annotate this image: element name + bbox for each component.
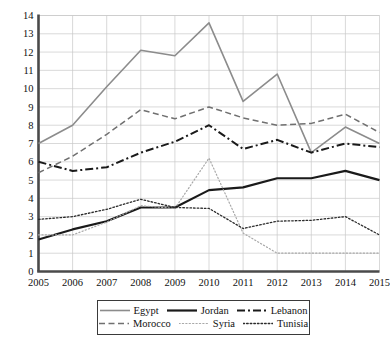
y-tick-12: 12: [23, 47, 34, 58]
legend-label-tunisia: Tunisia: [277, 318, 308, 329]
axes: [37, 15, 379, 272]
x-tick-2009: 2009: [164, 277, 185, 288]
legend-item-jordan: Jordan: [167, 305, 229, 316]
y-tick-8: 8: [28, 120, 33, 131]
line-chart: 01234567891011121314 2005200620072008200…: [0, 0, 390, 346]
y-tick-4: 4: [28, 193, 34, 204]
legend-swatch-jordan: [167, 306, 197, 315]
legend-item-morocco: Morocco: [99, 318, 171, 329]
x-tick-2014: 2014: [335, 277, 357, 288]
legend-label-syria: Syria: [213, 318, 235, 329]
legend-item-egypt: Egypt: [100, 305, 159, 316]
legend-swatch-morocco: [99, 319, 129, 328]
legend-label-jordan: Jordan: [201, 305, 229, 316]
x-tick-2006: 2006: [62, 277, 83, 288]
x-tick-2007: 2007: [96, 277, 117, 288]
x-tick-2005: 2005: [28, 277, 49, 288]
legend-item-lebanon: Lebanon: [237, 305, 308, 316]
y-tick-3: 3: [28, 211, 33, 222]
y-tick-2: 2: [28, 230, 33, 241]
y-tick-1: 1: [28, 248, 33, 259]
chart-legend: Egypt Jordan Lebanon Morocco Syria: [97, 300, 310, 335]
x-tick-2013: 2013: [301, 277, 322, 288]
legend-swatch-syria: [179, 319, 209, 328]
legend-swatch-tunisia: [243, 319, 273, 328]
x-axis-tick-labels: 2005200620072008200920102011201220132014…: [28, 277, 390, 288]
legend-row-2: Morocco Syria Tunisia: [103, 317, 304, 330]
x-tick-2011: 2011: [233, 277, 254, 288]
legend-item-syria: Syria: [179, 318, 235, 329]
grid-lines: [39, 16, 380, 272]
legend-label-egypt: Egypt: [134, 305, 159, 316]
legend-item-tunisia: Tunisia: [243, 318, 308, 329]
y-tick-5: 5: [28, 175, 33, 186]
y-tick-9: 9: [28, 102, 33, 113]
y-tick-10: 10: [23, 83, 34, 94]
legend-label-morocco: Morocco: [133, 318, 171, 329]
y-tick-6: 6: [28, 156, 33, 167]
x-tick-2015: 2015: [369, 277, 390, 288]
y-tick-11: 11: [23, 65, 33, 76]
y-tick-13: 13: [23, 28, 34, 39]
legend-row-1: Egypt Jordan Lebanon: [103, 304, 304, 317]
legend-swatch-egypt: [100, 306, 130, 315]
legend-swatch-lebanon: [237, 306, 267, 315]
x-tick-2010: 2010: [199, 277, 220, 288]
x-tick-2012: 2012: [267, 277, 288, 288]
chart-plot-area: 01234567891011121314 2005200620072008200…: [0, 0, 390, 346]
x-tick-2008: 2008: [130, 277, 151, 288]
y-tick-14: 14: [23, 10, 34, 21]
y-tick-0: 0: [28, 266, 33, 277]
y-tick-7: 7: [28, 138, 33, 149]
y-axis-tick-labels: 01234567891011121314: [23, 10, 34, 277]
legend-label-lebanon: Lebanon: [271, 305, 308, 316]
